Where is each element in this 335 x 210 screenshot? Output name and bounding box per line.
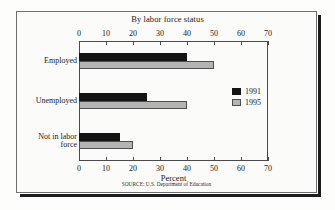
legend-swatch-icon <box>232 88 241 95</box>
legend-swatch-icon <box>232 99 241 106</box>
category-label-line2: force <box>61 140 77 149</box>
frame-shadow-bottom <box>20 194 321 197</box>
x-tick-label-bottom: 50 <box>202 164 226 173</box>
x-tick-label-top: 20 <box>121 29 145 38</box>
category-axis-labels: Employed Unemployed Not in labor force <box>5 41 77 161</box>
category-label-employed: Employed <box>7 57 77 66</box>
x-tick-label-bottom: 10 <box>94 164 118 173</box>
category-label-line1: Employed <box>44 56 77 65</box>
chart-title: By labor force status <box>0 14 335 24</box>
x-tick-top <box>133 41 134 45</box>
legend-item-1991: 1991 <box>232 86 261 97</box>
x-tick-bottom <box>133 157 134 161</box>
legend-item-1995: 1995 <box>232 97 261 108</box>
x-tick-bottom <box>79 157 80 161</box>
x-tick-top <box>214 41 215 45</box>
x-tick-bottom <box>241 157 242 161</box>
x-tick-label-top: 60 <box>229 29 253 38</box>
x-tick-label-bottom: 60 <box>229 164 253 173</box>
x-tick-top <box>187 41 188 45</box>
x-tick-bottom <box>187 157 188 161</box>
x-tick-top <box>268 41 269 45</box>
x-tick-label-bottom: 30 <box>148 164 172 173</box>
x-tick-label-bottom: 0 <box>67 164 91 173</box>
x-tick-top <box>106 41 107 45</box>
x-tick-bottom <box>106 157 107 161</box>
chart-figure: By labor force status Employed Unemploye… <box>0 0 335 210</box>
legend-label: 1991 <box>245 87 261 96</box>
category-label-not-in-labor-force: Not in labor force <box>7 133 77 150</box>
x-tick-label-bottom: 70 <box>256 164 280 173</box>
bar-1995-unemployed <box>79 101 187 109</box>
x-tick-label-bottom: 20 <box>121 164 145 173</box>
x-tick-label-top: 50 <box>202 29 226 38</box>
bar-1991-not-in-labor-force <box>79 133 120 141</box>
bar-1991-unemployed <box>79 93 147 101</box>
source-note: SOURCE: U.S. Department of Education <box>16 181 317 187</box>
x-tick-label-top: 0 <box>67 29 91 38</box>
x-tick-label-top: 40 <box>175 29 199 38</box>
x-tick-top <box>241 41 242 45</box>
x-tick-top <box>79 41 80 45</box>
bar-1991-employed <box>79 53 187 61</box>
category-label-unemployed: Unemployed <box>7 97 77 106</box>
x-tick-label-top: 10 <box>94 29 118 38</box>
legend-label: 1995 <box>245 98 261 107</box>
bar-1995-not-in-labor-force <box>79 141 133 149</box>
frame-shadow-right <box>318 15 321 197</box>
x-tick-label-top: 70 <box>256 29 280 38</box>
x-tick-top <box>160 41 161 45</box>
bar-1995-employed <box>79 61 214 69</box>
x-tick-label-bottom: 40 <box>175 164 199 173</box>
x-tick-bottom <box>268 157 269 161</box>
category-label-line1: Unemployed <box>36 96 77 105</box>
x-tick-label-top: 30 <box>148 29 172 38</box>
chart-legend: 1991 1995 <box>232 86 261 108</box>
x-tick-bottom <box>214 157 215 161</box>
x-tick-bottom <box>160 157 161 161</box>
